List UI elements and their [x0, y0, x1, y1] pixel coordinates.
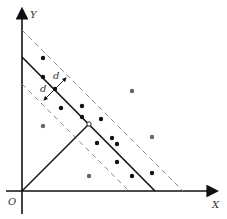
normal-line	[22, 124, 89, 191]
data-point	[115, 160, 119, 164]
data-point	[150, 171, 154, 175]
svm-margin-diagram: Y X O d d	[0, 0, 227, 219]
margin-label-lower: d	[40, 83, 46, 94]
data-point	[110, 136, 114, 140]
data-point	[41, 124, 45, 128]
margin-label-upper: d	[53, 70, 59, 81]
data-point	[130, 174, 134, 178]
data-point	[95, 141, 99, 145]
origin-label: O	[8, 196, 16, 207]
data-point	[99, 117, 103, 121]
data-point	[59, 106, 63, 110]
data-point	[150, 135, 154, 139]
data-point	[41, 75, 45, 79]
data-point	[41, 56, 45, 60]
data-point	[80, 115, 84, 119]
data-point	[87, 174, 91, 178]
data-point	[80, 104, 84, 108]
data-point	[115, 142, 119, 146]
x-axis-label: X	[211, 199, 220, 210]
data-point	[130, 89, 134, 93]
foot-point	[87, 122, 91, 126]
data-point	[53, 87, 57, 91]
y-axis-label: Y	[30, 9, 38, 20]
